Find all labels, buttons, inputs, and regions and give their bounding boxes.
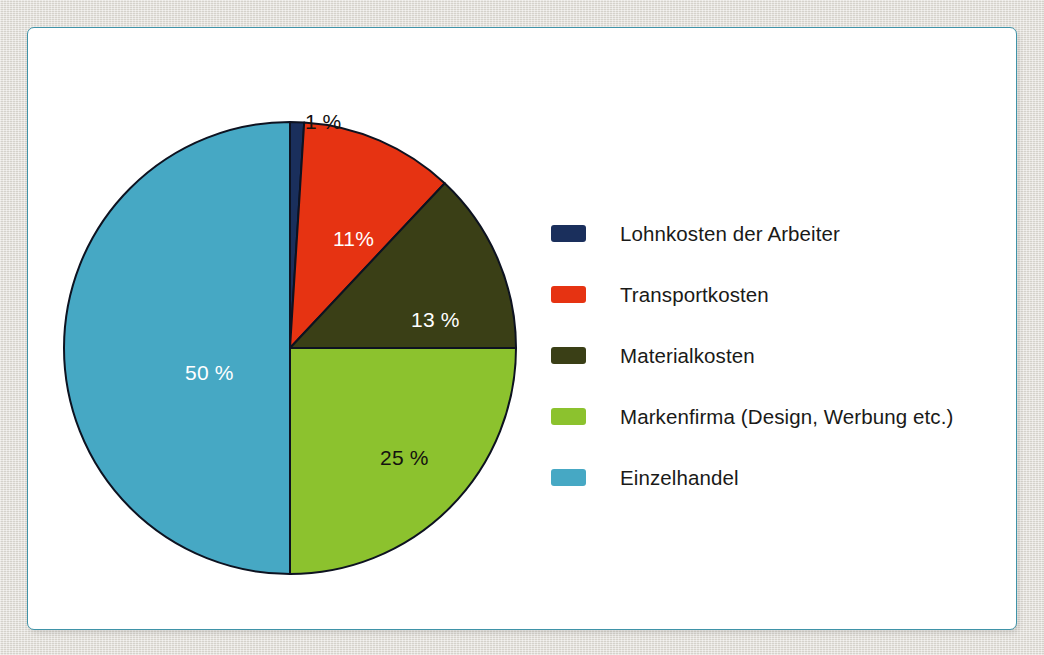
legend-item-label: Lohnkosten der Arbeiter bbox=[620, 222, 840, 246]
legend-swatch-icon bbox=[551, 347, 586, 364]
legend-item-materialkosten[interactable]: Materialkosten bbox=[551, 325, 981, 386]
legend-swatch-icon bbox=[551, 469, 586, 486]
legend-item-markenfirma[interactable]: Markenfirma (Design, Werbung etc.) bbox=[551, 386, 981, 447]
slice-value-label-lohnkosten: 1 % bbox=[305, 110, 341, 134]
pie-chart-svg bbox=[42, 98, 538, 598]
figure-panel: 1 % 11% 13 % 25 % 50 % Lohnkosten der Ar… bbox=[27, 27, 1017, 630]
pie-slice-group bbox=[64, 122, 516, 574]
legend-swatch-icon bbox=[551, 286, 586, 303]
legend-item-label: Markenfirma (Design, Werbung etc.) bbox=[620, 405, 953, 429]
legend-item-transportkosten[interactable]: Transportkosten bbox=[551, 264, 981, 325]
legend-item-einzelhandel[interactable]: Einzelhandel bbox=[551, 447, 981, 508]
pie-chart: 1 % 11% 13 % 25 % 50 % Lohnkosten der Ar… bbox=[28, 28, 1018, 631]
legend-item-label: Einzelhandel bbox=[620, 466, 739, 490]
chart-legend: Lohnkosten der Arbeiter Transportkosten … bbox=[551, 203, 981, 508]
legend-item-lohnkosten-der-arbeiter[interactable]: Lohnkosten der Arbeiter bbox=[551, 203, 981, 264]
legend-item-label: Materialkosten bbox=[620, 344, 755, 368]
legend-swatch-icon bbox=[551, 408, 586, 425]
legend-swatch-icon bbox=[551, 225, 586, 242]
pie-slice[interactable] bbox=[64, 122, 290, 574]
pie-slice[interactable] bbox=[290, 348, 516, 574]
legend-item-label: Transportkosten bbox=[620, 283, 769, 307]
